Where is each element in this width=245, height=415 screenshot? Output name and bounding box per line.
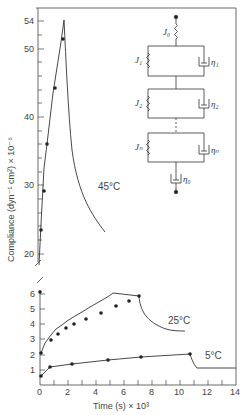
svg-text:5: 5 — [30, 304, 35, 314]
svg-text:2: 2 — [65, 387, 70, 397]
label-5c: 5°C — [205, 350, 222, 361]
series-45c — [39, 20, 105, 265]
svg-text:10: 10 — [174, 387, 184, 397]
x-tick-labels: 0 2 4 6 8 10 12 14 — [37, 387, 240, 397]
svg-text:J₂: J₂ — [135, 98, 142, 108]
label-25c: 25°C — [168, 315, 190, 326]
svg-text:ηₙ: ηₙ — [211, 145, 219, 155]
svg-text:40: 40 — [24, 112, 34, 122]
svg-text:J₁: J₁ — [135, 55, 142, 65]
svg-text:η₂: η₂ — [211, 99, 219, 109]
svg-text:6: 6 — [121, 387, 126, 397]
svg-text:6: 6 — [30, 289, 35, 299]
svg-text:η₀: η₀ — [183, 174, 191, 184]
series-25c — [41, 293, 185, 353]
y-axis-label: Compliance (dyn⁻¹ cm²) × 10⁻⁶ — [6, 137, 16, 262]
svg-text:3: 3 — [30, 334, 35, 344]
svg-text:54: 54 — [24, 16, 34, 26]
svg-text:12: 12 — [202, 387, 212, 397]
svg-text:Jₙ: Jₙ — [135, 142, 143, 152]
svg-text:0: 0 — [37, 387, 42, 397]
x-axis-label: Time (s) × 10³ — [93, 401, 149, 411]
svg-text:J₀: J₀ — [163, 27, 170, 37]
lower-y-tick-labels: 1 2 3 4 5 6 — [30, 289, 35, 375]
x-ticks — [54, 380, 222, 385]
series-45c-points — [39, 37, 65, 232]
svg-text:1: 1 — [30, 365, 35, 375]
svg-text:4: 4 — [30, 319, 35, 329]
series-25c-points — [38, 290, 141, 355]
svg-text:30: 30 — [24, 180, 34, 190]
svg-text:8: 8 — [149, 387, 154, 397]
svg-text:20: 20 — [24, 249, 34, 259]
lower-y-ticks — [40, 294, 45, 370]
svg-text:η₁: η₁ — [211, 57, 219, 67]
svg-text:2: 2 — [30, 350, 35, 360]
inset-model-diagram — [147, 15, 210, 194]
svg-text:14: 14 — [230, 387, 240, 397]
label-45c: 45°C — [98, 181, 120, 192]
svg-text:4: 4 — [93, 387, 98, 397]
svg-text:50: 50 — [24, 44, 34, 54]
compliance-chart: 20 30 40 50 54 1 2 3 4 5 6 0 — [0, 0, 245, 415]
upper-y-tick-labels: 20 30 40 50 54 — [24, 16, 34, 259]
